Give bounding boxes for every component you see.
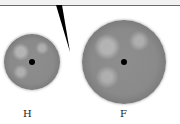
label-f: F	[120, 108, 127, 119]
sphere-h	[4, 34, 60, 90]
sphere-f-center-dot	[121, 59, 127, 65]
sphere-f	[82, 20, 166, 104]
label-h: H	[23, 108, 32, 119]
diagram-canvas: H F	[0, 0, 180, 124]
sphere-h-center-dot	[29, 59, 35, 65]
